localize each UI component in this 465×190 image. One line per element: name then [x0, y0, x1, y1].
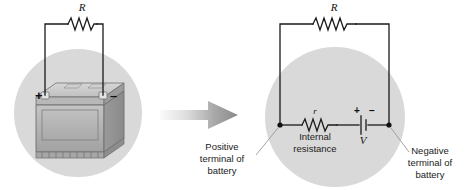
- positive-terminal-caption-line2: terminal of: [200, 153, 245, 164]
- physics-figure: R + – R + – V r Internal resistance: [0, 0, 465, 190]
- right-external-resistor-label: R: [330, 1, 338, 13]
- positive-terminal-node-dot: [277, 122, 282, 127]
- right-external-resistor-symbol: [313, 18, 356, 30]
- left-negative-sign: –: [110, 88, 117, 103]
- left-positive-sign: +: [35, 88, 43, 103]
- battery-front-face: [36, 105, 104, 152]
- transform-arrow-icon: [160, 101, 238, 129]
- emf-minus-sign: –: [369, 105, 375, 116]
- left-resistor-label: R: [78, 1, 86, 13]
- positive-terminal-caption-line1: Positive: [205, 141, 238, 152]
- negative-terminal-caption-line1: Negative: [411, 145, 449, 156]
- left-external-resistor-symbol: [68, 18, 97, 30]
- figure-canvas: R + – R + – V r Internal resistance: [0, 0, 465, 190]
- internal-resistance-caption-line2: resistance: [293, 143, 336, 154]
- internal-resistor-label: r: [313, 106, 317, 116]
- emf-plus-sign: +: [354, 105, 360, 116]
- right-panel-circle-background: [265, 47, 405, 187]
- negative-terminal-node-dot: [386, 122, 391, 127]
- internal-resistance-caption-line1: Internal: [299, 131, 331, 142]
- negative-terminal-caption-line3: battery: [415, 169, 444, 180]
- negative-terminal-caption-line2: terminal of: [408, 157, 453, 168]
- positive-terminal-caption-line3: battery: [207, 165, 236, 176]
